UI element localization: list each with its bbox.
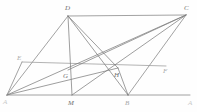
vertex-label-H: H: [113, 71, 120, 79]
vertex-label-G: G: [63, 72, 68, 80]
vertex-label-D: D: [64, 4, 70, 12]
segment-EF: [22, 62, 166, 66]
segment-DM: [68, 16, 72, 95]
geometry-figure-container: ABCDEFGHMA: [0, 0, 197, 112]
vertex-labels-layer: ABCDEFGHMA: [2, 4, 193, 107]
segments-layer: [7, 15, 190, 95]
vertex-label-M: M: [67, 99, 75, 107]
segment-BC: [128, 15, 186, 95]
segment-CG: [68, 15, 186, 70]
segment-AC: [7, 15, 186, 95]
segment-CM: [72, 15, 186, 95]
vertex-label-B: B: [125, 99, 130, 107]
vertex-label-C: C: [184, 4, 189, 12]
vertex-label-X: A: [187, 99, 193, 107]
segment-DH: [68, 16, 118, 68]
vertex-label-A: A: [2, 98, 8, 106]
vertex-label-F: F: [162, 67, 168, 75]
geometry-figure-svg: ABCDEFGHMA: [0, 0, 197, 112]
segment-DC: [68, 15, 186, 16]
segment-DB: [68, 16, 128, 95]
vertex-label-E: E: [16, 54, 22, 62]
segment-HB: [118, 68, 128, 95]
